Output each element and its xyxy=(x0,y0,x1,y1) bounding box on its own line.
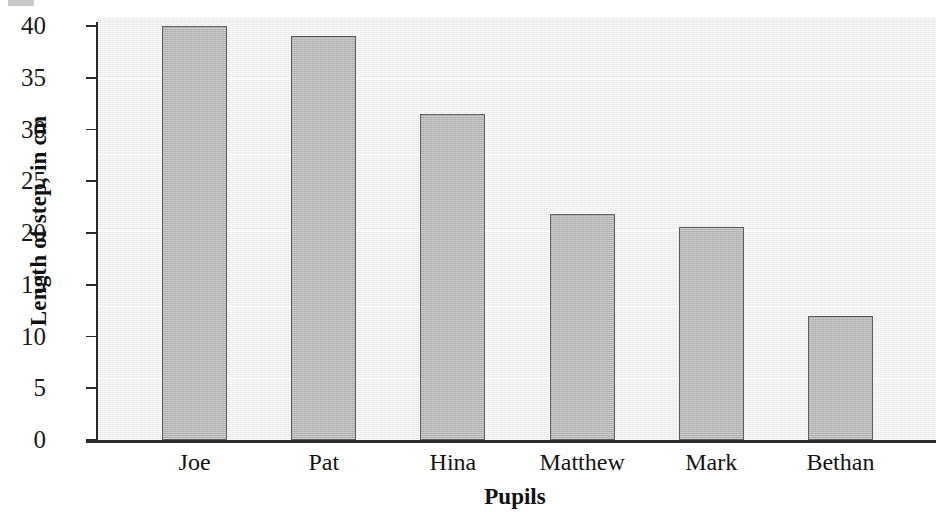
x-tick-label-hina: Hina xyxy=(383,449,523,475)
bar-joe xyxy=(162,26,227,440)
y-axis-title: Length of step, in cm xyxy=(26,56,52,386)
bar-bethan xyxy=(808,316,873,440)
plot-area xyxy=(97,18,936,440)
x-axis-line xyxy=(86,440,936,443)
x-tick-label-matthew: Matthew xyxy=(512,449,652,475)
y-tick-25 xyxy=(86,180,97,182)
x-axis-category-labels: JoePatHinaMatthewMarkBethan xyxy=(97,449,936,481)
bar-hina xyxy=(420,114,485,440)
y-tick-20 xyxy=(86,232,97,234)
x-tick-label-mark: Mark xyxy=(641,449,781,475)
x-tick-label-pat: Pat xyxy=(254,449,394,475)
y-tick-10 xyxy=(86,336,97,338)
bar-mark xyxy=(679,227,744,440)
y-tick-15 xyxy=(86,284,97,286)
y-tick-label-0: 0 xyxy=(2,427,46,452)
y-tick-label-40: 40 xyxy=(2,13,46,38)
y-tick-0 xyxy=(86,439,97,441)
y-tick-35 xyxy=(86,77,97,79)
bar-pat xyxy=(291,36,356,440)
y-tick-40 xyxy=(86,25,97,27)
x-axis-title: Pupils xyxy=(0,484,936,510)
y-tick-5 xyxy=(86,387,97,389)
bar-matthew xyxy=(550,214,615,440)
bar-chart: 4035302520151050 Length of step, in cm P… xyxy=(0,0,936,516)
y-tick-30 xyxy=(86,129,97,131)
x-tick-label-joe: Joe xyxy=(125,449,265,475)
bars-layer xyxy=(97,18,936,440)
x-tick-label-bethan: Bethan xyxy=(770,449,910,475)
